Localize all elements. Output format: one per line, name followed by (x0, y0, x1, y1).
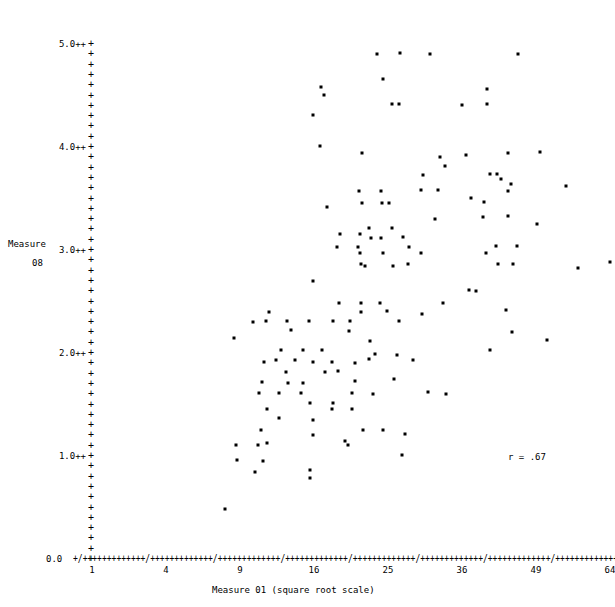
data-point (261, 381, 264, 384)
data-point (505, 309, 508, 312)
data-point (358, 190, 361, 193)
data-point (381, 202, 384, 205)
x-axis-title: Measure 01 (square root scale) (212, 586, 375, 595)
data-point (399, 52, 402, 55)
data-point (489, 349, 492, 352)
y-axis-tick: + (88, 400, 94, 410)
data-point (404, 433, 407, 436)
y-axis-tick: + (88, 91, 94, 101)
data-point (517, 53, 520, 56)
x-axis-tick-label: 1 (89, 566, 94, 575)
data-point (391, 103, 394, 106)
data-point (312, 280, 315, 283)
y-axis-tick: + (88, 80, 94, 90)
data-point (364, 265, 367, 268)
data-point (434, 218, 437, 221)
y-axis-tick: + (88, 183, 94, 193)
y-axis-tick: + (88, 194, 94, 204)
x-axis-tick-label: 4 (163, 566, 168, 575)
data-point (339, 233, 342, 236)
data-point (254, 471, 257, 474)
y-axis-tick: + (88, 286, 94, 296)
data-point (372, 393, 375, 396)
data-point (302, 349, 305, 352)
data-point (439, 156, 442, 159)
data-point (445, 393, 448, 396)
data-point (344, 440, 347, 443)
data-point (326, 206, 329, 209)
data-point (362, 429, 365, 432)
data-point (302, 382, 305, 385)
y-axis-tick: + (88, 224, 94, 234)
data-point (609, 261, 612, 264)
y-axis-tick-label: 1.0++ (40, 452, 86, 461)
data-point (486, 88, 489, 91)
data-point (507, 152, 510, 155)
data-point (236, 459, 239, 462)
data-point (319, 145, 322, 148)
data-point (338, 302, 341, 305)
data-point (262, 460, 265, 463)
data-point (258, 392, 261, 395)
data-point (360, 311, 363, 314)
data-point (361, 152, 364, 155)
data-point (412, 359, 415, 362)
data-point (420, 189, 423, 192)
data-point (359, 233, 362, 236)
data-point (331, 408, 334, 411)
x-axis-origin-label: 0.0 (46, 555, 62, 564)
data-point (486, 103, 489, 106)
data-point (402, 236, 405, 239)
data-point (360, 263, 363, 266)
data-point (391, 227, 394, 230)
data-point (263, 361, 266, 364)
data-point (485, 252, 488, 255)
data-point (308, 320, 311, 323)
data-point (309, 469, 312, 472)
x-axis-tick-label: 16 (309, 566, 320, 575)
y-axis-tick: + (88, 358, 94, 368)
data-point (257, 444, 260, 447)
data-point (361, 202, 364, 205)
data-point (577, 267, 580, 270)
data-point (386, 310, 389, 313)
data-point (500, 178, 503, 181)
data-point (382, 78, 385, 81)
data-point (382, 252, 385, 255)
data-point (511, 331, 514, 334)
y-axis-tick-label: 5.0++ (40, 40, 86, 49)
data-point (468, 289, 471, 292)
data-point (280, 349, 283, 352)
y-axis-tick: + (88, 461, 94, 471)
data-point (349, 320, 352, 323)
data-point (351, 408, 354, 411)
x-axis-tick-label: 64 (605, 566, 615, 575)
data-point (300, 392, 303, 395)
data-point (489, 173, 492, 176)
y-axis-title-line2: 08 (32, 259, 43, 268)
data-point (380, 237, 383, 240)
data-point (420, 252, 423, 255)
data-point (368, 227, 371, 230)
data-point (321, 349, 324, 352)
data-point (224, 508, 227, 511)
data-point (398, 103, 401, 106)
data-point (337, 370, 340, 373)
data-point (312, 361, 315, 364)
data-point (444, 165, 447, 168)
y-axis-tick-label: 2.0++ (40, 349, 86, 358)
data-point (401, 454, 404, 457)
data-point (285, 371, 288, 374)
data-point (287, 382, 290, 385)
y-axis: ++++++++++++++++++++++++++++++++++++++++… (88, 36, 102, 564)
data-point (422, 174, 425, 177)
data-point (235, 444, 238, 447)
data-point (369, 340, 372, 343)
data-point (516, 245, 519, 248)
y-axis-tick: + (88, 152, 94, 162)
data-point (286, 320, 289, 323)
data-point (495, 245, 498, 248)
data-point (483, 201, 486, 204)
data-point (312, 419, 315, 422)
data-point (347, 444, 350, 447)
